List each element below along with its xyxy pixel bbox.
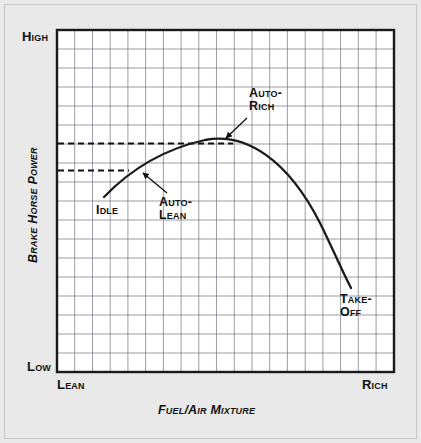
x-axis-title: Fuel/Air Mixture [158,404,255,417]
annotation-take-off: Take- Off [340,293,372,319]
x-axis-lean-label: Lean [57,378,85,392]
y-axis-low-label: Low [27,360,51,374]
x-axis-rich-label: Rich [362,378,388,392]
annotation-auto-rich-line2: Rich [249,100,282,113]
annotation-auto-rich: Auto- Rich [249,87,282,113]
annotation-take-off-line2: Off [340,306,372,319]
y-axis-high-label: High [22,30,48,44]
annotation-auto-lean: Auto- Lean [159,196,192,222]
annotation-auto-lean-line2: Lean [159,209,192,222]
annotation-idle: Idle [96,204,118,217]
chart-figure: High Low Lean Rich Fuel/Air Mixture Brak… [0,0,421,443]
y-axis-title: Brake Horse Power [27,147,40,263]
